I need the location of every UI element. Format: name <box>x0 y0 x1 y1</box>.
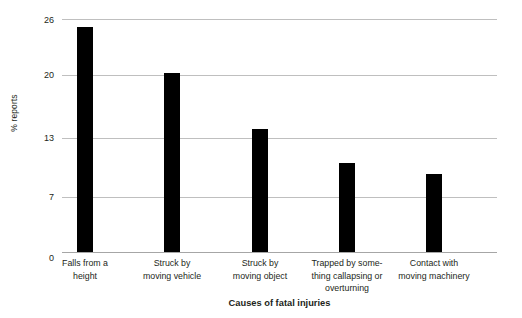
axis-baseline <box>62 252 497 253</box>
plot-area <box>62 16 497 256</box>
bar-chart: % reports 0 7 13 20 26 Falls from a heig… <box>0 0 522 318</box>
y-tick-label-20: 20 <box>14 71 54 80</box>
y-tick-label-7: 7 <box>14 193 54 202</box>
category-label-4: Contact with moving machinery <box>380 257 488 282</box>
gridline-13 <box>62 138 497 139</box>
category-label-3-line-2: overturning <box>293 282 401 295</box>
y-tick-label-26: 26 <box>14 16 54 25</box>
bar-struck-by-moving-vehicle <box>164 73 180 252</box>
bar-struck-by-moving-object <box>252 129 268 252</box>
bar-contact-with-moving-machinery <box>426 174 442 252</box>
gridline-26 <box>62 19 497 20</box>
bar-trapped-by-something-collapsing <box>339 163 355 252</box>
bar-falls-from-a-height <box>77 27 93 252</box>
y-tick-label-13: 13 <box>14 134 54 143</box>
category-label-4-line-1: moving machinery <box>380 270 488 283</box>
x-axis-category-labels: Falls from a height Struck by moving veh… <box>62 257 497 299</box>
gridline-20 <box>62 75 497 76</box>
y-axis-tick-labels: 0 7 13 20 26 <box>0 16 62 256</box>
x-axis-title: Causes of fatal injuries <box>62 298 497 308</box>
category-label-4-line-0: Contact with <box>380 257 488 270</box>
